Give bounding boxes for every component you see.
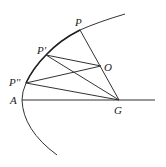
- label-P-prime: P': [36, 44, 47, 56]
- label-G: G: [114, 104, 122, 116]
- segment-P2-O: [26, 66, 101, 83]
- label-A: A: [9, 94, 17, 106]
- segment-P-G: [80, 30, 119, 100]
- geometry-figure: P P' P'' O A G: [0, 0, 166, 167]
- diagram-canvas: P P' P'' O A G: [0, 0, 166, 167]
- label-P: P: [74, 16, 82, 28]
- label-O: O: [104, 61, 112, 73]
- label-P-double-prime: P'': [8, 76, 21, 88]
- curve-arc: [22, 14, 125, 155]
